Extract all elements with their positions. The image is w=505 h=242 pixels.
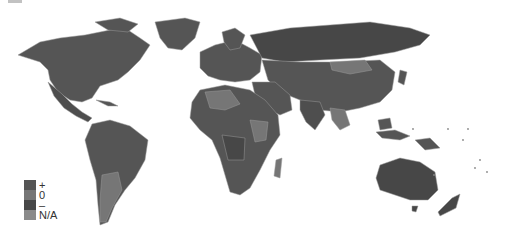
region-japan <box>398 70 407 85</box>
region-madagascar <box>274 158 282 178</box>
region-new-guinea <box>415 138 440 150</box>
region-borneo <box>378 118 392 130</box>
region-new-zealand <box>438 194 460 216</box>
region-arctic-islands <box>95 18 138 32</box>
region-greenland <box>155 18 200 50</box>
region-north-america <box>18 28 150 102</box>
region-caribbean <box>96 100 118 106</box>
region-tasmania <box>412 206 418 212</box>
world-map <box>0 0 505 242</box>
legend-swatch-plus <box>24 180 36 190</box>
region-russia <box>250 22 430 62</box>
map-legend: + 0 – N/A <box>24 180 57 220</box>
legend-label-na: N/A <box>39 210 57 220</box>
region-australia <box>376 158 438 200</box>
legend-swatch-minus <box>24 200 36 210</box>
region-indonesia <box>376 130 410 140</box>
legend-swatch-na <box>24 210 36 220</box>
region-southeast-asia <box>330 108 350 130</box>
legend-swatch-zero <box>24 190 36 200</box>
legend-item-na: N/A <box>24 210 57 220</box>
